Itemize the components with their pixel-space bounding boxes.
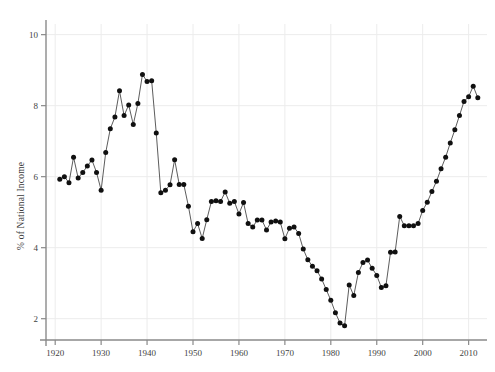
- data-point-marker: [416, 221, 421, 226]
- data-point-marker: [287, 226, 292, 231]
- y-tick-label: 4: [14, 243, 38, 253]
- data-point-marker: [76, 176, 81, 181]
- data-point-marker: [103, 150, 108, 155]
- x-tick-label: 1990: [368, 348, 386, 358]
- data-point-marker: [333, 310, 338, 315]
- data-point-marker: [71, 155, 76, 160]
- data-point-marker: [218, 199, 223, 204]
- data-point-marker: [200, 236, 205, 241]
- data-point-marker: [315, 268, 320, 273]
- data-point-marker: [181, 182, 186, 187]
- data-point-marker: [80, 170, 85, 175]
- data-point-marker: [191, 229, 196, 234]
- data-point-marker: [186, 204, 191, 209]
- data-point-marker: [402, 223, 407, 228]
- data-point-marker: [126, 102, 131, 107]
- y-tick-label: 2: [14, 314, 38, 324]
- data-point-marker: [149, 78, 154, 83]
- data-point-marker: [57, 177, 62, 182]
- data-point-marker: [301, 247, 306, 252]
- data-point-marker: [122, 113, 127, 118]
- data-series-line: [60, 74, 478, 325]
- data-point-marker: [429, 189, 434, 194]
- data-point-marker: [89, 157, 94, 162]
- data-point-marker: [232, 199, 237, 204]
- x-tick-label: 1920: [46, 348, 64, 358]
- data-point-marker: [163, 188, 168, 193]
- data-point-marker: [383, 283, 388, 288]
- data-point-marker: [264, 227, 269, 232]
- data-point-marker: [85, 164, 90, 169]
- data-point-marker: [365, 258, 370, 263]
- y-tick-label: 10: [14, 30, 38, 40]
- data-point-marker: [420, 208, 425, 213]
- x-tick-label: 1970: [276, 348, 294, 358]
- series-line-group: [60, 74, 478, 325]
- data-point-marker: [236, 211, 241, 216]
- data-point-marker: [351, 293, 356, 298]
- x-tick-label: 1960: [230, 348, 248, 358]
- data-point-marker: [411, 223, 416, 228]
- data-point-marker: [448, 140, 453, 145]
- data-point-marker: [356, 270, 361, 275]
- data-point-marker: [296, 231, 301, 236]
- series-markers-group: [57, 72, 480, 328]
- data-point-marker: [452, 127, 457, 132]
- data-point-marker: [246, 221, 251, 226]
- data-point-marker: [168, 182, 173, 187]
- data-point-marker: [172, 157, 177, 162]
- data-point-marker: [94, 170, 99, 175]
- data-point-marker: [393, 249, 398, 254]
- data-point-marker: [338, 320, 343, 325]
- data-point-marker: [324, 287, 329, 292]
- x-tick-label: 1980: [322, 348, 340, 358]
- data-point-marker: [140, 72, 145, 77]
- data-point-marker: [227, 201, 232, 206]
- data-point-marker: [213, 198, 218, 203]
- data-point-marker: [457, 113, 462, 118]
- data-point-marker: [269, 220, 274, 225]
- data-point-marker: [117, 88, 122, 93]
- data-point-marker: [250, 225, 255, 230]
- data-point-marker: [62, 174, 67, 179]
- data-point-marker: [223, 189, 228, 194]
- data-point-marker: [204, 217, 209, 222]
- data-point-marker: [475, 95, 480, 100]
- data-point-marker: [282, 236, 287, 241]
- gridlines-group: [46, 24, 487, 340]
- data-point-marker: [425, 200, 430, 205]
- axes-group: [40, 20, 487, 346]
- data-point-marker: [397, 214, 402, 219]
- data-point-marker: [388, 250, 393, 255]
- data-point-marker: [131, 122, 136, 127]
- data-point-marker: [135, 101, 140, 106]
- data-point-marker: [466, 94, 471, 99]
- y-tick-label: 6: [14, 172, 38, 182]
- data-point-marker: [209, 199, 214, 204]
- data-point-marker: [319, 276, 324, 281]
- data-point-marker: [241, 200, 246, 205]
- data-point-marker: [370, 266, 375, 271]
- data-point-marker: [273, 219, 278, 224]
- chart-container: % of National Income 1920193019401950196…: [0, 0, 495, 372]
- data-point-marker: [443, 155, 448, 160]
- x-tick-label: 2000: [414, 348, 432, 358]
- data-point-marker: [347, 282, 352, 287]
- data-point-marker: [379, 285, 384, 290]
- data-point-marker: [374, 273, 379, 278]
- data-point-marker: [278, 220, 283, 225]
- data-point-marker: [99, 188, 104, 193]
- data-point-marker: [342, 323, 347, 328]
- data-point-marker: [112, 115, 117, 120]
- data-point-marker: [259, 217, 264, 222]
- data-point-marker: [360, 260, 365, 265]
- line-chart-plot: [0, 0, 495, 372]
- x-tick-label: 2010: [460, 348, 478, 358]
- data-point-marker: [195, 221, 200, 226]
- x-tick-label: 1940: [138, 348, 156, 358]
- data-point-marker: [406, 223, 411, 228]
- data-point-marker: [154, 131, 159, 136]
- data-point-marker: [66, 180, 71, 185]
- data-point-marker: [462, 99, 467, 104]
- data-point-marker: [471, 84, 476, 89]
